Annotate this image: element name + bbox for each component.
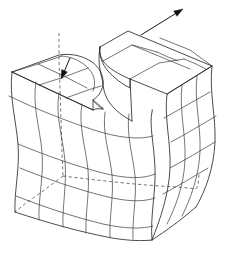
block-diagram-figure: Faulted deformed block diagram Three-dim… — [0, 0, 227, 257]
block-diagram-canvas — [0, 0, 227, 257]
